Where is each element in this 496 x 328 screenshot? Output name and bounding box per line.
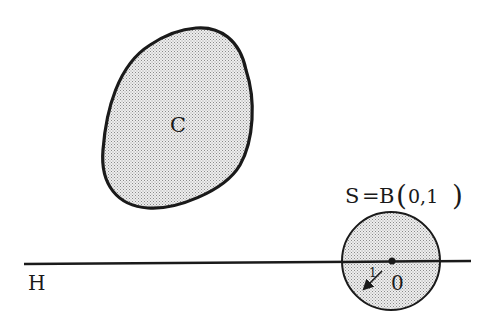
- radius-label: 1: [369, 266, 377, 280]
- set-c-label: C: [170, 113, 186, 137]
- svg-text:B: B: [379, 184, 394, 208]
- svg-text:=: =: [362, 184, 380, 208]
- origin-point: [389, 258, 396, 265]
- svg-text:0,1: 0,1: [408, 185, 438, 207]
- hyperplane-label: H: [28, 271, 45, 295]
- origin-label: 0: [391, 271, 404, 295]
- diagram-canvas: C H 1 0 S = B ( 0,1 ): [0, 0, 496, 328]
- svg-text:): ): [452, 179, 463, 212]
- svg-text:(: (: [396, 179, 407, 212]
- sphere-label: S = B ( 0,1 ): [345, 179, 463, 212]
- svg-text:S: S: [345, 184, 359, 208]
